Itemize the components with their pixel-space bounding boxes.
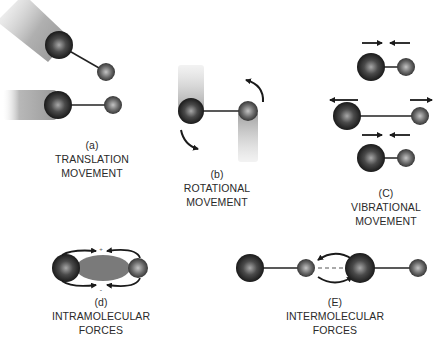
large-atom	[45, 31, 73, 59]
panel-b-rotational	[178, 65, 263, 162]
panel-e-intermolecular	[236, 253, 427, 283]
panel-letter: (d)	[46, 295, 156, 309]
caption-line: VIBRATIONAL	[336, 200, 435, 214]
panel-a-caption: (a) TRANSLATION MOVEMENT	[42, 138, 142, 180]
charge-mark: -	[100, 286, 103, 293]
small-atom	[238, 101, 258, 121]
small-atom	[104, 96, 122, 114]
panel-letter: (E)	[280, 295, 390, 309]
panel-letter: (b)	[172, 167, 262, 181]
caption-line: MOVEMENT	[172, 195, 262, 209]
caption-line: INTERMOLECULAR	[280, 309, 390, 323]
small-atom	[297, 259, 315, 277]
caption-line: INTRAMOLECULAR	[46, 309, 156, 323]
small-atom	[397, 149, 415, 167]
electron-cloud	[76, 255, 130, 281]
caption-line: MOVEMENT	[336, 214, 435, 228]
panel-d-intramolecular: + -	[52, 246, 148, 293]
panel-c-vibrational	[330, 43, 432, 172]
panel-letter: (a)	[42, 138, 142, 152]
small-atom	[97, 63, 115, 81]
force-arrow	[318, 277, 352, 283]
panel-e-caption: (E) INTERMOLECULAR FORCES	[280, 295, 390, 337]
charge-mark: +	[99, 246, 103, 252]
force-arrow	[318, 254, 352, 260]
large-atom	[357, 53, 385, 81]
small-atom	[128, 258, 148, 278]
caption-line: FORCES	[280, 323, 390, 337]
small-atom	[409, 259, 427, 277]
large-atom	[236, 254, 264, 282]
panel-letter: (C)	[336, 186, 435, 200]
caption-line: TRANSLATION	[42, 152, 142, 166]
panel-a-translation	[0, 0, 122, 120]
large-atom	[52, 254, 80, 282]
small-atom	[411, 107, 429, 125]
panel-c-caption: (C) VIBRATIONAL MOVEMENT	[336, 186, 435, 228]
panel-d-caption: (d) INTRAMOLECULAR FORCES	[46, 295, 156, 337]
panel-b-caption: (b) ROTATIONAL MOVEMENT	[172, 167, 262, 209]
large-atom	[345, 253, 375, 283]
caption-line: ROTATIONAL	[172, 181, 262, 195]
rotation-arrow-up	[246, 80, 263, 102]
large-atom	[333, 102, 361, 130]
large-atom	[178, 98, 204, 124]
large-atom	[44, 91, 72, 119]
caption-line: FORCES	[46, 323, 156, 337]
large-atom	[357, 144, 385, 172]
rotation-arrow-down	[181, 130, 198, 149]
caption-line: MOVEMENT	[42, 166, 142, 180]
small-atom	[397, 58, 415, 76]
